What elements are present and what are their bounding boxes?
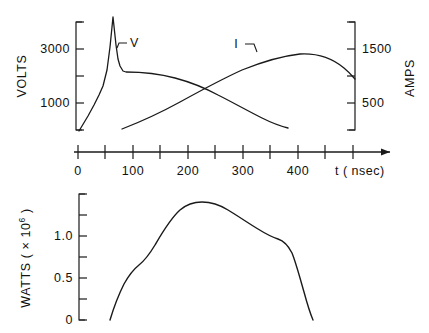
- right-axis-tick-label-1500: 1500: [362, 42, 392, 56]
- left-volts-axis: [76, 22, 84, 130]
- time-axis-arrowhead: [381, 148, 390, 155]
- current-curve: [122, 54, 355, 129]
- time-axis: [74, 145, 390, 159]
- voltage-curve-label: V: [130, 36, 139, 50]
- watts-axis: [79, 194, 87, 320]
- left-axis-tick-label-3000: 3000: [40, 42, 70, 56]
- right-amps-axis: [347, 22, 355, 130]
- waveform-figure: 3000 1000 VOLTS 1500 500 AMPS V I 0: [0, 0, 429, 333]
- watts-title-mult: × 10: [19, 222, 33, 249]
- watts-tick-label-1-0: 1.0: [54, 229, 73, 243]
- watts-tick-label-0: 0: [66, 313, 73, 327]
- x-axis-tick-label-300: 300: [232, 164, 254, 178]
- right-axis-title-amps: AMPS: [403, 59, 417, 97]
- left-axis-tick-label-1000: 1000: [40, 96, 70, 110]
- x-axis-tick-label-400: 400: [287, 164, 309, 178]
- x-axis-tick-label-200: 200: [177, 164, 199, 178]
- watts-title-main: WATTS (: [19, 249, 33, 307]
- watts-axis-title: WATTS ( × 106 ): [17, 208, 33, 308]
- x-axis-title-time: t ( nsec): [335, 164, 385, 178]
- x-axis-tick-label-0: 0: [74, 164, 81, 178]
- current-leader-line: [245, 44, 257, 52]
- right-axis-tick-label-500: 500: [362, 96, 384, 110]
- voltage-leader-line: [117, 43, 127, 48]
- svg-text:WATTS ( × 106 ): WATTS ( × 106 ): [17, 208, 33, 308]
- watts-tick-label-0-5: 0.5: [54, 271, 73, 285]
- voltage-curve: [79, 17, 288, 131]
- x-axis-tick-label-100: 100: [122, 164, 144, 178]
- watts-title-close: ): [19, 208, 33, 217]
- power-curve: [110, 202, 313, 320]
- current-curve-label: I: [234, 37, 237, 51]
- left-axis-title-volts: VOLTS: [15, 54, 29, 97]
